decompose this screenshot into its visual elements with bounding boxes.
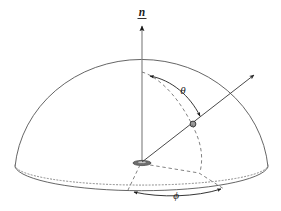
normal-vector-label: n [139,6,145,18]
base-ellipse-back-dotted [15,165,268,185]
figure-container: n θ ϕ [0,0,281,211]
hemisphere-spherical-coordinates-diagram: n θ ϕ [0,0,281,211]
direction-ray-arrow [142,75,254,162]
origin-marker-inner [138,161,146,164]
theta-angle-arc [150,76,200,116]
phi-angle-label: ϕ [173,189,179,201]
base-radius-dashed-right [144,164,199,173]
base-radius-dashed-left [128,165,140,190]
theta-angle-label: θ [180,84,186,96]
base-ellipse-front-solid [15,167,268,191]
